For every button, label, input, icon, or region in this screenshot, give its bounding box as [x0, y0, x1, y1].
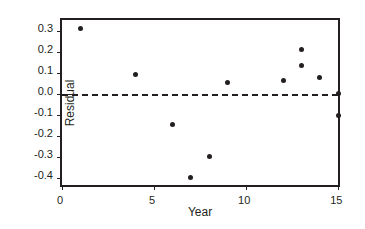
data-point [336, 113, 341, 118]
y-axis-tick [57, 73, 62, 74]
data-point [299, 63, 304, 68]
data-point [188, 175, 193, 180]
y-axis-tick-label: 0.1 [0, 65, 53, 76]
y-axis-label: Residual [63, 43, 77, 163]
data-point [170, 122, 175, 127]
data-point [317, 75, 322, 80]
y-axis-tick-label: 0.0 [0, 86, 53, 97]
y-axis-tick [57, 157, 62, 158]
residual-plot-figure: Residual 0.30.20.10.0-0.1-0.2-0.3-0.4 05… [0, 0, 365, 229]
x-axis-tick [62, 185, 63, 190]
y-axis-tick-label: 0.2 [0, 44, 53, 55]
y-axis-tick [57, 94, 62, 95]
y-axis-tick-label: -0.2 [0, 128, 53, 139]
y-axis-tick-label: 0.3 [0, 23, 53, 34]
data-point [336, 91, 341, 96]
y-axis-tick [57, 178, 62, 179]
y-axis-tick-label: -0.4 [0, 170, 53, 181]
data-point [281, 78, 286, 83]
y-axis-tick-label: -0.3 [0, 149, 53, 160]
data-point [225, 80, 230, 85]
data-point [133, 72, 138, 77]
y-axis-tick [57, 31, 62, 32]
x-axis-tick [154, 185, 155, 190]
data-point [78, 26, 83, 31]
x-axis-tick [246, 185, 247, 190]
y-axis-tick [57, 52, 62, 53]
data-point [299, 47, 304, 52]
y-axis-tick [57, 136, 62, 137]
y-axis-tick-label: -0.1 [0, 107, 53, 118]
y-axis-tick [57, 115, 62, 116]
x-axis-tick [338, 185, 339, 190]
x-axis-label: Year [60, 205, 340, 219]
plot-area: Residual [60, 18, 340, 187]
zero-reference-line [62, 94, 338, 96]
data-point [207, 154, 212, 159]
